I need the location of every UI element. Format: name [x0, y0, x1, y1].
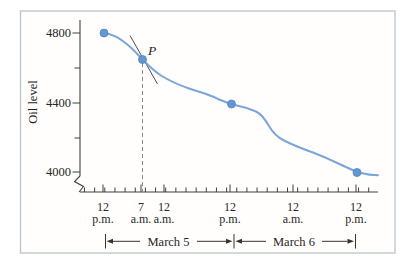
svg-text:a.m.: a.m. [131, 212, 152, 226]
oil-level-figure: P 4800 4400 4000 Oil level 12 p.m. 7 a.m… [0, 0, 409, 267]
svg-text:a.m.: a.m. [154, 212, 175, 226]
data-point-4000 [353, 169, 361, 177]
point-p-label: P [147, 43, 156, 58]
figure-canvas: P 4800 4400 4000 Oil level 12 p.m. 7 a.m… [0, 0, 409, 267]
svg-text:p.m.: p.m. [345, 212, 366, 226]
y-axis-title: Oil level [26, 80, 40, 124]
data-point-4800 [100, 29, 108, 37]
y-tick-label-4000: 4000 [46, 165, 71, 179]
figure-frame [21, 11, 396, 253]
march-6-label: March 6 [273, 235, 315, 249]
march-5-label: March 5 [148, 235, 190, 249]
y-tick-label-4800: 4800 [46, 26, 71, 40]
svg-text:a.m.: a.m. [283, 212, 304, 226]
data-point-p [139, 56, 147, 64]
data-point-4400 [228, 100, 236, 108]
svg-text:p.m.: p.m. [219, 212, 240, 226]
svg-text:p.m.: p.m. [92, 212, 113, 226]
y-tick-label-4400: 4400 [46, 96, 71, 110]
